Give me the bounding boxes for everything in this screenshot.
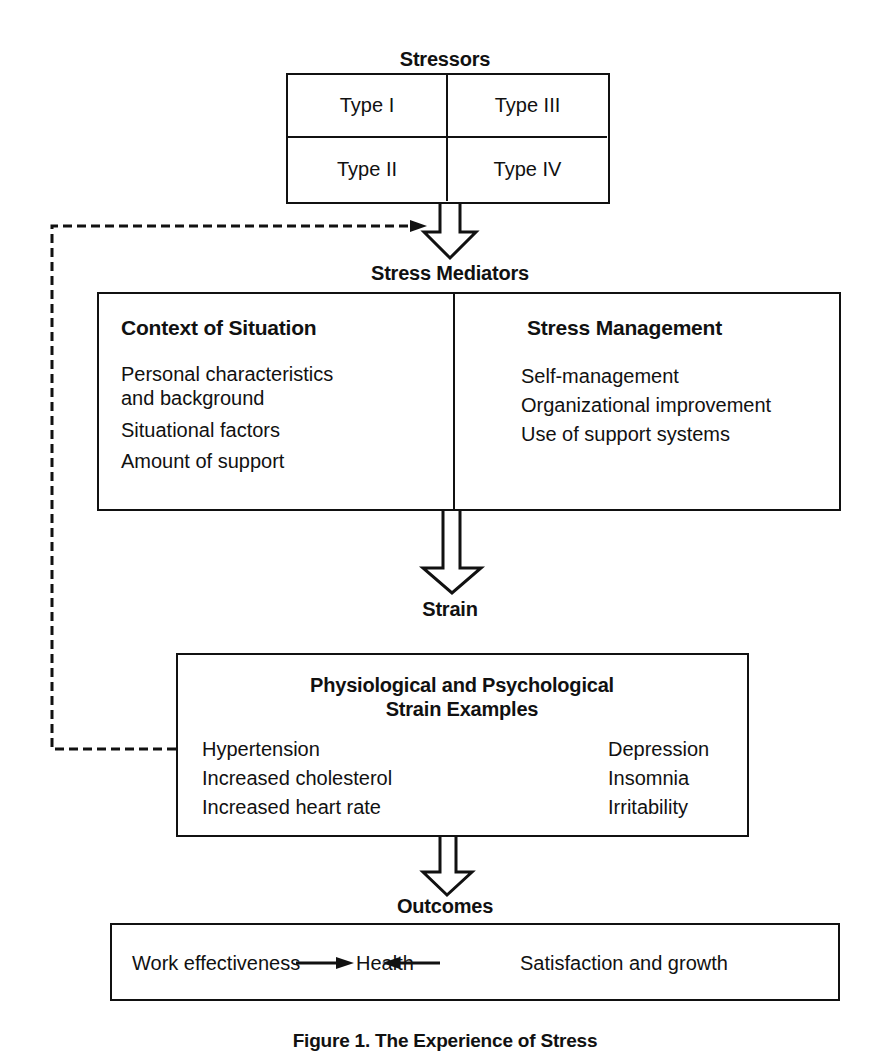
management-panel: Stress Management Self-management Organi… [521,316,771,449]
stressor-type-2: Type II [288,138,448,201]
strain-title: Strain [380,598,520,621]
context-item: Amount of support [121,447,333,476]
mediators-divider [453,294,455,509]
outcomes-box: Work effectiveness Health Satisfaction a… [110,923,840,1001]
context-heading: Context of Situation [121,316,333,340]
mediators-box: Context of Situation Personal characteri… [97,292,841,511]
management-item: Self-management [521,362,771,391]
strain-item: Hypertension [202,735,392,764]
hollow-arrow-down-icon [423,837,472,895]
outcome-satisfaction: Satisfaction and growth [520,949,728,978]
strain-item: Insomnia [608,764,709,793]
psychological-list: Depression Insomnia Irritability [608,735,709,822]
outcome-health: Health [356,949,414,978]
figure-caption: Figure 1. The Experience of Stress [240,1030,650,1052]
strain-item: Depression [608,735,709,764]
strain-heading: Physiological and Psychological Strain E… [178,673,746,721]
stressor-type-3: Type III [448,75,607,138]
stressors-title: Stressors [300,48,590,71]
management-item: Use of support systems [521,420,771,449]
stressor-type-1: Type I [288,75,448,138]
outcomes-title: Outcomes [360,895,530,918]
strain-item: Irritability [608,793,709,822]
hollow-arrow-down-icon [423,511,481,593]
strain-heading-line1: Physiological and Psychological [178,673,746,697]
outcome-work-effectiveness: Work effectiveness [132,949,300,978]
strain-heading-line2: Strain Examples [178,697,746,721]
mediators-title: Stress Mediators [300,262,600,285]
physiological-list: Hypertension Increased cholesterol Incre… [202,735,392,822]
management-heading: Stress Management [527,316,771,340]
strain-box: Physiological and Psychological Strain E… [176,653,749,837]
arrowhead-icon [410,220,427,232]
hollow-arrow-down-icon [424,203,476,258]
context-item: Situational factors [121,416,333,445]
context-panel: Context of Situation Personal characteri… [121,316,333,476]
strain-item: Increased cholesterol [202,764,392,793]
strain-item: Increased heart rate [202,793,392,822]
stressors-grid: Type I Type III Type II Type IV [286,73,610,204]
context-item: Personal characteristics [121,362,333,386]
stressor-type-4: Type IV [448,138,607,201]
management-item: Organizational improvement [521,391,771,420]
context-item: and background [121,386,333,410]
